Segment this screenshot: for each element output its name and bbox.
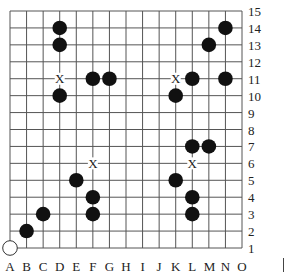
column-label: M xyxy=(204,260,214,273)
black-stone-N11 xyxy=(218,71,233,86)
column-label: E xyxy=(71,260,81,273)
black-stone-N14 xyxy=(218,21,233,36)
column-label: L xyxy=(187,260,197,273)
row-label: 10 xyxy=(248,90,261,103)
black-stone-F3 xyxy=(86,207,101,222)
black-stone-K5 xyxy=(168,173,183,188)
x-mark-K11: X xyxy=(171,71,181,86)
black-stone-D14 xyxy=(52,21,67,36)
column-label: B xyxy=(22,260,32,273)
x-mark-D11: X xyxy=(55,71,65,86)
black-stone-L11 xyxy=(185,71,200,86)
row-label: 12 xyxy=(248,56,261,69)
row-label: 9 xyxy=(248,107,255,120)
black-stone-L3 xyxy=(185,207,200,222)
column-label: G xyxy=(104,260,114,273)
black-stone-F11 xyxy=(86,71,101,86)
row-label: 15 xyxy=(248,5,261,18)
row-label: 8 xyxy=(248,124,255,137)
white-stone-A1 xyxy=(3,241,18,256)
column-label: I xyxy=(138,260,148,273)
row-label: 7 xyxy=(248,140,255,153)
column-label: C xyxy=(38,260,48,273)
column-label: K xyxy=(171,260,181,273)
x-mark-L6: X xyxy=(188,156,198,171)
row-label: 5 xyxy=(248,174,255,187)
black-stone-E5 xyxy=(69,173,84,188)
column-label: D xyxy=(55,260,65,273)
black-stone-K10 xyxy=(168,88,183,103)
text-cursor xyxy=(283,258,284,272)
black-stone-M7 xyxy=(202,139,217,154)
row-label: 2 xyxy=(248,225,255,238)
row-label: 6 xyxy=(248,157,255,170)
column-label: O xyxy=(237,260,247,273)
black-stone-B2 xyxy=(19,224,34,239)
black-stone-G11 xyxy=(102,71,117,86)
column-label: J xyxy=(154,260,164,273)
black-stone-C3 xyxy=(36,207,51,222)
row-label: 11 xyxy=(248,73,261,86)
black-stone-L4 xyxy=(185,190,200,205)
black-stone-F4 xyxy=(86,190,101,205)
row-label: 4 xyxy=(248,191,255,204)
black-stone-M13 xyxy=(202,38,217,53)
x-mark-F6: X xyxy=(88,156,98,171)
row-label: 3 xyxy=(248,208,255,221)
row-label: 14 xyxy=(248,22,261,35)
column-label: N xyxy=(220,260,230,273)
column-label: H xyxy=(121,260,131,273)
black-stone-D13 xyxy=(52,38,67,53)
row-label: 1 xyxy=(248,242,255,255)
column-label: F xyxy=(88,260,98,273)
column-label: A xyxy=(5,260,15,273)
black-stone-L7 xyxy=(185,139,200,154)
row-label: 13 xyxy=(248,39,261,52)
black-stone-D10 xyxy=(52,88,67,103)
